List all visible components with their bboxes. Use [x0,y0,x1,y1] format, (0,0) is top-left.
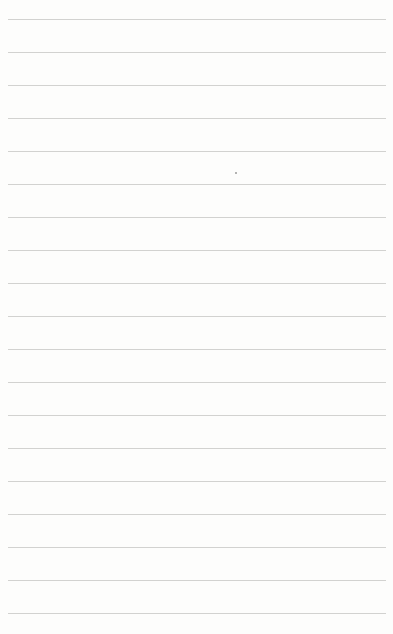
ruled-line [8,613,386,614]
ruled-line [8,481,386,482]
ruled-line [8,118,386,119]
ruled-line [8,382,386,383]
ruled-line [8,217,386,218]
ruled-line [8,415,386,416]
paper-speck [235,172,237,174]
ruled-line [8,151,386,152]
ruled-line [8,184,386,185]
ruled-line [8,514,386,515]
ruled-line [8,19,386,20]
ruled-line [8,250,386,251]
ruled-line [8,547,386,548]
ruled-line [8,349,386,350]
ruled-line [8,52,386,53]
ruled-line [8,283,386,284]
ruled-line [8,85,386,86]
ruled-line [8,580,386,581]
ruled-line [8,316,386,317]
lined-paper-sheet [0,0,393,634]
ruled-line [8,448,386,449]
